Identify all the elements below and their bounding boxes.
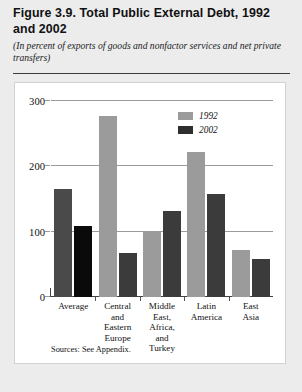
chart-legend: 1992 2002 bbox=[178, 110, 218, 138]
x-axis-label-0: Average bbox=[51, 301, 95, 312]
bar-2002-east bbox=[252, 259, 270, 297]
header-divider bbox=[13, 73, 290, 74]
y-tick-mark bbox=[45, 100, 50, 101]
y-tick-label: 0 bbox=[40, 292, 45, 303]
bar-1992-latin bbox=[187, 152, 205, 297]
y-tick-mark bbox=[45, 231, 50, 232]
chart-panel: 0100200300 AverageCentralandEasternEurop… bbox=[14, 82, 286, 364]
legend-label-2002: 2002 bbox=[199, 125, 218, 135]
bar-1992-central bbox=[99, 116, 117, 297]
y-tick-label: 300 bbox=[29, 96, 45, 107]
bar-2002-central bbox=[119, 253, 137, 297]
source-note: Sources: See Appendix. bbox=[51, 345, 131, 354]
legend-item-2002: 2002 bbox=[178, 124, 218, 135]
legend-swatch-icon-2002 bbox=[178, 126, 193, 134]
y-tick-label: 200 bbox=[29, 161, 45, 172]
legend-item-1992: 1992 bbox=[178, 110, 218, 121]
legend-label-1992: 1992 bbox=[199, 111, 218, 121]
bar-2002-middle bbox=[163, 211, 181, 297]
bar-2002-latin bbox=[207, 194, 225, 297]
bar-1992-average bbox=[54, 189, 72, 297]
figure-subtitle: (In percent of exports of goods and nonf… bbox=[13, 40, 291, 64]
bars-group bbox=[51, 101, 273, 297]
bar-1992-east bbox=[232, 250, 250, 297]
plot-area: 0100200300 bbox=[51, 101, 273, 297]
legend-swatch-icon-1992 bbox=[178, 112, 193, 120]
bar-1992-middle bbox=[143, 232, 161, 297]
figure-title: Figure 3.9. Total Public External Debt, … bbox=[13, 6, 291, 37]
y-tick-label: 100 bbox=[29, 226, 45, 237]
x-axis-label-2: MiddleEast,Africa,andTurkey bbox=[140, 301, 184, 354]
x-axis-label-4: EastAsia bbox=[229, 301, 273, 322]
y-tick-mark bbox=[45, 165, 50, 166]
bar-2002-average bbox=[74, 226, 92, 297]
figure-header: Figure 3.9. Total Public External Debt, … bbox=[13, 6, 291, 64]
figure-container: Figure 3.9. Total Public External Debt, … bbox=[0, 0, 302, 392]
x-axis-label-1: CentralandEasternEurope bbox=[95, 301, 139, 343]
x-axis-label-3: LatinAmerica bbox=[184, 301, 228, 322]
